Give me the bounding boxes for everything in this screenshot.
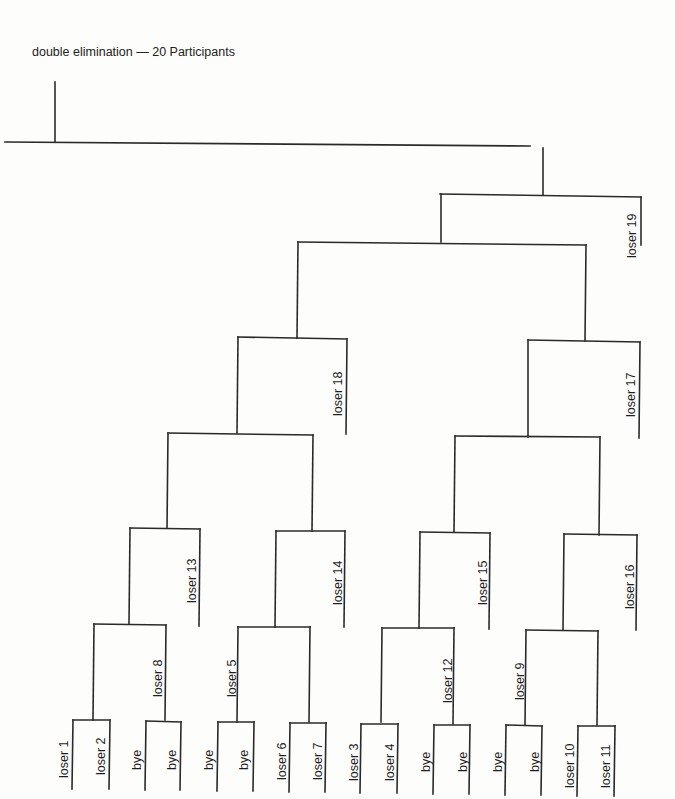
slot-bye: bye: [165, 750, 179, 770]
label-loser-13: loser 13: [185, 559, 199, 603]
slot-bye: bye: [237, 750, 251, 770]
label-loser-16: loser 16: [623, 565, 637, 609]
slot-loser-10: loser 10: [563, 744, 577, 788]
slot-bye: bye: [419, 752, 433, 772]
slot-bye: bye: [456, 752, 470, 772]
slot-loser-2: loser 2: [94, 737, 108, 775]
label-loser-18: loser 18: [331, 372, 345, 416]
label-loser-19: loser 19: [625, 214, 639, 258]
slot-loser-3: loser 3: [347, 743, 361, 781]
slot-loser-1: loser 1: [57, 740, 71, 778]
label-loser-5: loser 5: [225, 659, 239, 697]
label-loser-15: loser 15: [476, 561, 490, 605]
label-loser-14: loser 14: [331, 561, 345, 605]
slot-loser-6: loser 6: [275, 742, 289, 780]
slot-loser-11: loser 11: [599, 744, 613, 788]
slot-bye: bye: [130, 750, 144, 770]
slot-loser-7: loser 7: [311, 742, 325, 780]
slot-bye: bye: [528, 752, 542, 772]
slot-bye: bye: [491, 752, 505, 772]
label-loser-12: loser 12: [441, 659, 455, 703]
label-loser-9: loser 9: [513, 662, 527, 700]
label-loser-17: loser 17: [624, 373, 638, 417]
label-loser-8: loser 8: [151, 659, 165, 697]
slot-bye: bye: [202, 750, 216, 770]
slot-loser-4: loser 4: [383, 743, 397, 781]
